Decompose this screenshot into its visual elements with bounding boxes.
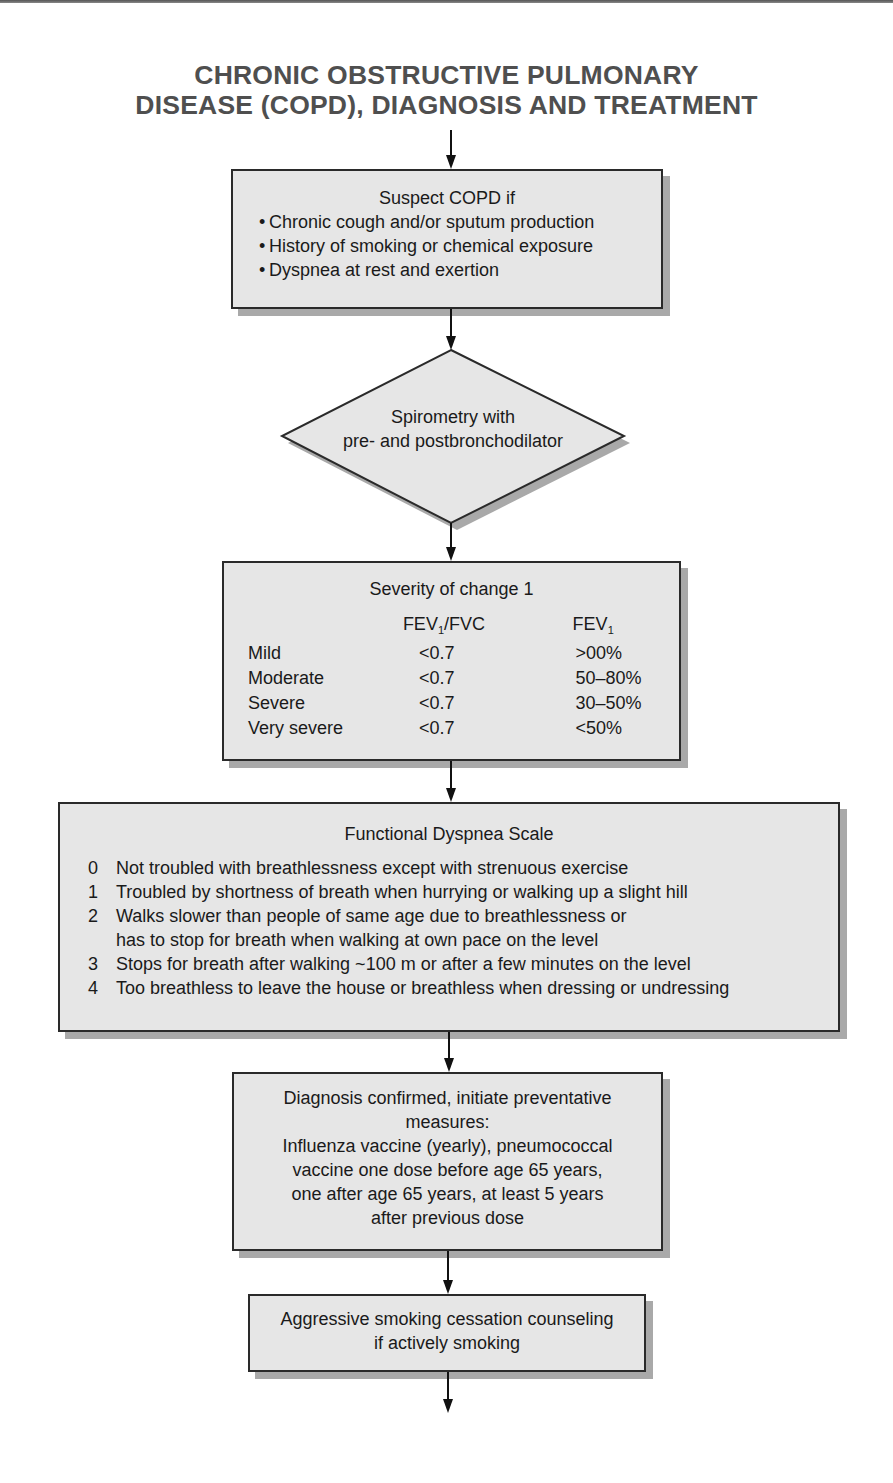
severity-header-row: FEV1/FVC FEV1 bbox=[224, 611, 679, 636]
arrow-down-icon bbox=[446, 130, 456, 169]
suspect-copd-box: Suspect COPD if •Chronic cough and/or sp… bbox=[231, 169, 663, 309]
dyspnea-scale-box: Functional Dyspnea Scale 0 Not troubled … bbox=[58, 802, 840, 1032]
list-item: 3 Stops for breath after walking ~100 m … bbox=[60, 952, 838, 976]
bullet-icon: • bbox=[259, 258, 265, 282]
title-line-2: DISEASE (COPD), DIAGNOSIS AND TREATMENT bbox=[0, 90, 893, 120]
bullet-icon: • bbox=[259, 234, 265, 258]
col-header-fev1: FEV1 bbox=[529, 612, 679, 636]
spirometry-label: Spirometry with pre- and postbronchodila… bbox=[282, 405, 624, 453]
bullet-icon: • bbox=[259, 210, 265, 234]
table-row: Mild <0.7 >00% bbox=[224, 640, 679, 665]
title-line-1: CHRONIC OBSTRUCTIVE PULMONARY bbox=[0, 60, 893, 90]
list-item: 4 Too breathless to leave the house or b… bbox=[60, 976, 838, 1000]
list-item: 2 Walks slower than people of same age d… bbox=[60, 904, 838, 928]
suspect-heading: Suspect COPD if bbox=[233, 186, 661, 210]
page-title: CHRONIC OBSTRUCTIVE PULMONARY DISEASE (C… bbox=[0, 60, 893, 120]
smoking-cessation-box: Aggressive smoking cessation counseling … bbox=[248, 1294, 646, 1372]
list-item: 0 Not troubled with breathlessness excep… bbox=[60, 856, 838, 880]
arrow-down-icon bbox=[446, 761, 456, 802]
list-item: •Dyspnea at rest and exertion bbox=[269, 258, 661, 282]
arrow-down-icon bbox=[446, 309, 456, 350]
top-rule bbox=[0, 0, 893, 3]
list-item: 1 Troubled by shortness of breath when h… bbox=[60, 880, 838, 904]
suspect-criteria-list: •Chronic cough and/or sputum production … bbox=[233, 210, 661, 282]
arrow-down-icon bbox=[443, 1251, 453, 1294]
severity-table-box: Severity of change 1 FEV1/FVC FEV1 Mild … bbox=[222, 561, 681, 761]
table-row: Severe <0.7 30–50% bbox=[224, 690, 679, 715]
list-item-continuation: has to stop for breath when walking at o… bbox=[60, 928, 838, 952]
col-header-fev1-fvc: FEV1/FVC bbox=[399, 612, 529, 636]
arrow-down-icon bbox=[446, 523, 456, 561]
arrow-down-icon bbox=[443, 1372, 453, 1413]
diagnosis-confirmed-box: Diagnosis confirmed, initiate preventati… bbox=[232, 1072, 663, 1251]
dyspnea-heading: Functional Dyspnea Scale bbox=[60, 822, 838, 846]
table-row: Very severe <0.7 <50% bbox=[224, 715, 679, 740]
arrow-down-icon bbox=[444, 1032, 454, 1072]
severity-heading: Severity of change 1 bbox=[224, 577, 679, 601]
list-item: •History of smoking or chemical exposure bbox=[269, 234, 661, 258]
list-item: •Chronic cough and/or sputum production bbox=[269, 210, 661, 234]
table-row: Moderate <0.7 50–80% bbox=[224, 665, 679, 690]
